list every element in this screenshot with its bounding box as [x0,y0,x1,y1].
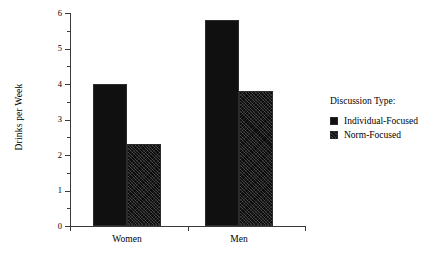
bar-women-individual-focused [93,84,127,226]
y-tick-major [65,120,70,121]
bar-chart-figure: Drinks per Week 0123456 WomenMen Discuss… [0,0,438,257]
x-tick [305,227,306,231]
x-tick-label-women: Women [87,234,167,244]
y-tick-minor [67,102,70,103]
y-axis-line [70,13,71,227]
bar-men-norm-focused [239,91,273,226]
legend-swatch-icon [330,117,338,125]
bar-women-norm-focused [127,144,161,226]
y-tick-label: 2 [40,151,62,160]
y-tick-major [65,84,70,85]
x-tick [70,227,71,231]
legend: Discussion Type: Individual-FocusedNorm-… [330,96,438,144]
legend-label: Norm-Focused [344,130,401,141]
legend-entries: Individual-FocusedNorm-Focused [330,116,438,141]
y-tick-minor [67,208,70,209]
legend-label: Individual-Focused [344,116,418,127]
y-tick-label: 6 [40,9,62,18]
y-tick-label: 1 [40,186,62,195]
y-tick-label: 3 [40,115,62,124]
y-tick-major [65,49,70,50]
legend-item-individual-focused: Individual-Focused [330,116,438,127]
y-tick-minor [67,137,70,138]
y-tick-major [65,191,70,192]
legend-title: Discussion Type: [330,96,438,106]
y-axis-label: Drinks per Week [14,62,24,172]
legend-item-norm-focused: Norm-Focused [330,130,438,141]
legend-swatch-icon [330,131,338,139]
y-tick-minor [67,66,70,67]
y-tick-label: 5 [40,44,62,53]
y-tick-minor [67,173,70,174]
x-tick-label-men: Men [199,234,279,244]
bar-men-individual-focused [205,20,239,226]
y-tick-major [65,155,70,156]
y-tick-major [65,13,70,14]
y-tick-label: 0 [40,222,62,231]
y-tick-minor [67,31,70,32]
y-tick-label: 4 [40,80,62,89]
x-tick [188,227,189,231]
